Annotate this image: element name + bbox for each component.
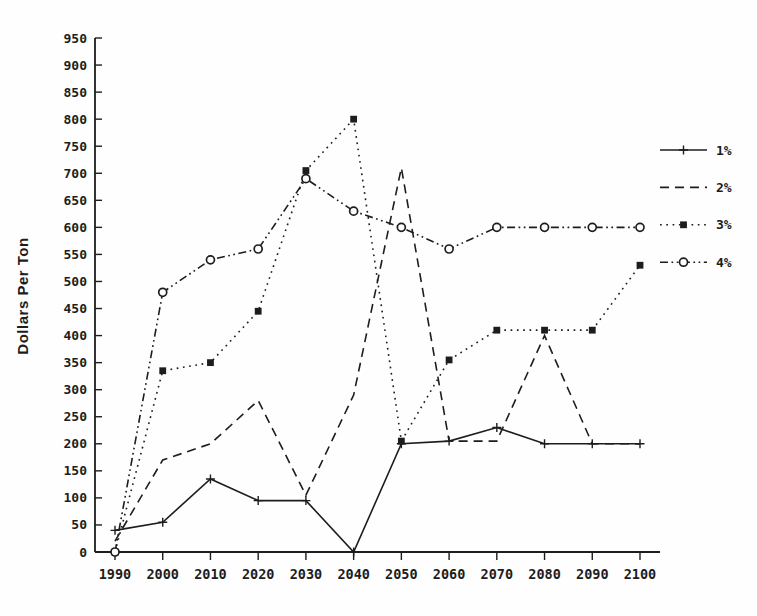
y-axis-tick-label: 350 <box>64 355 88 370</box>
line-chart: 0501001502002503003504004505005506006507… <box>0 0 757 616</box>
series-3pct-point-marker <box>493 327 500 334</box>
series-3pct-point-marker <box>446 357 453 364</box>
y-axis-tick-label: 50 <box>71 517 87 532</box>
series-3pct-line <box>115 119 640 552</box>
series-2pct-line <box>115 168 640 541</box>
chart-figure: 0501001502002503003504004505005506006507… <box>0 0 757 616</box>
y-axis-tick-label: 200 <box>64 436 88 451</box>
y-axis-tick-label: 900 <box>64 58 88 73</box>
series-3pct-point-marker <box>303 167 310 174</box>
y-axis-tick-label: 550 <box>64 247 88 262</box>
series-4pct-point-marker <box>493 223 501 231</box>
y-axis-tick-label: 450 <box>64 301 88 316</box>
series-1pct-point-marker <box>111 526 120 535</box>
x-axis-tick-label: 2010 <box>194 566 227 582</box>
series-1pct-line <box>115 428 640 552</box>
x-axis-tick-label: 2090 <box>576 566 609 582</box>
x-axis-tick-label: 2040 <box>337 566 370 582</box>
x-axis-tick-label: 1990 <box>99 566 132 582</box>
series-4pct-point-marker <box>302 175 310 183</box>
legend-3pct-label: 3% <box>716 217 732 232</box>
x-axis-tick-label: 2070 <box>481 566 514 582</box>
series-3pct-point-marker <box>589 327 596 334</box>
legend-3pct-marker <box>680 221 687 228</box>
legend-2pct-label: 2% <box>716 180 732 195</box>
y-axis-tick-label: 0 <box>79 545 87 560</box>
x-axis-tick-label: 2100 <box>624 566 657 582</box>
legend-1pct-label: 1% <box>716 143 732 158</box>
y-axis-tick-label: 800 <box>64 112 88 127</box>
series-3pct-point-marker <box>159 367 166 374</box>
x-axis-tick-label: 2080 <box>528 566 561 582</box>
y-axis-tick-label: 400 <box>64 328 88 343</box>
series-3pct-point-marker <box>350 116 357 123</box>
x-axis-tick-label: 2000 <box>146 566 179 582</box>
y-axis-tick-label: 700 <box>64 166 88 181</box>
series-3pct-point-marker <box>541 327 548 334</box>
series-3pct-point-marker <box>255 308 262 315</box>
series-4pct-point-marker <box>588 223 596 231</box>
y-axis-tick-label: 500 <box>64 274 88 289</box>
series-4pct-point-marker <box>111 548 119 556</box>
series-4pct-point-marker <box>159 288 167 296</box>
legend-4pct-marker <box>680 258 688 266</box>
y-axis-tick-label: 650 <box>64 193 88 208</box>
series-4pct-point-marker <box>350 207 358 215</box>
y-axis-tick-label: 750 <box>64 139 88 154</box>
series-4pct-point-marker <box>254 245 262 253</box>
series-4pct-point-marker <box>206 256 214 264</box>
series-3pct-point-marker <box>207 359 214 366</box>
x-axis-tick-label: 2050 <box>385 566 418 582</box>
y-axis-tick-label: 850 <box>64 85 88 100</box>
y-axis-title: Dollars Per Ton <box>14 237 31 354</box>
series-1pct-point-marker <box>254 496 263 505</box>
y-axis-tick-label: 950 <box>64 31 88 46</box>
y-axis-tick-label: 600 <box>64 220 88 235</box>
series-1pct-point-marker <box>492 423 501 432</box>
legend-4pct-label: 4% <box>716 255 732 270</box>
y-axis-tick-label: 100 <box>64 490 88 505</box>
x-axis-tick-label: 2060 <box>433 566 466 582</box>
x-axis-tick-label: 2030 <box>290 566 323 582</box>
legend-1pct-marker <box>679 146 688 155</box>
series-3pct-point-marker <box>637 262 644 269</box>
series-4pct-point-marker <box>636 223 644 231</box>
series-3pct-point-marker <box>398 438 405 445</box>
series-4pct-point-marker <box>541 223 549 231</box>
series-4pct-point-marker <box>445 245 453 253</box>
series-4pct-point-marker <box>397 223 405 231</box>
y-axis-tick-label: 250 <box>64 409 88 424</box>
y-axis-tick-label: 300 <box>64 382 88 397</box>
series-1pct-point-marker <box>540 439 549 448</box>
x-axis-tick-label: 2020 <box>242 566 275 582</box>
y-axis-tick-label: 150 <box>64 463 88 478</box>
